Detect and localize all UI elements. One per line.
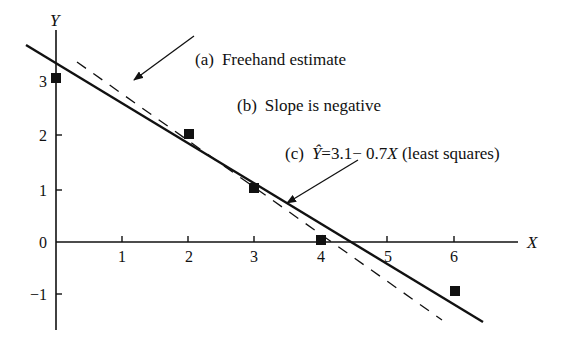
svg-text:1: 1 xyxy=(39,182,47,199)
x-ticks xyxy=(122,236,454,242)
annotation-c: (c)Ŷ=3.1− 0.7X (least squares) xyxy=(285,144,500,163)
svg-text:0: 0 xyxy=(39,234,47,251)
data-point xyxy=(51,73,61,83)
svg-text:3: 3 xyxy=(250,248,258,265)
svg-text:2: 2 xyxy=(39,127,47,144)
data-point xyxy=(184,129,194,139)
freehand-estimate-line xyxy=(77,62,442,320)
annotation-c-arrow xyxy=(287,160,358,203)
annotation-b: (b)Slope is negative xyxy=(237,96,381,115)
y-ticks xyxy=(56,135,62,294)
annotation-a: (a)Freehand estimate xyxy=(195,50,346,69)
x-tick-labels: 1 2 3 4 5 6 xyxy=(118,248,458,265)
data-point xyxy=(450,286,460,296)
annotation-a-arrow xyxy=(134,36,194,80)
y-tick-labels: 3 2 1 0 −1 xyxy=(30,73,47,303)
svg-text:3: 3 xyxy=(39,73,47,90)
svg-text:2: 2 xyxy=(185,248,193,265)
svg-text:1: 1 xyxy=(118,248,126,265)
svg-text:4: 4 xyxy=(317,248,325,265)
regression-chart: Y X 1 2 3 4 5 6 3 2 1 0 −1 xyxy=(0,0,569,354)
y-axis-label: Y xyxy=(50,11,61,30)
x-axis-label: X xyxy=(526,233,538,252)
data-point xyxy=(249,183,259,193)
svg-text:6: 6 xyxy=(450,248,458,265)
data-point xyxy=(316,235,326,245)
svg-text:−1: −1 xyxy=(30,286,47,303)
